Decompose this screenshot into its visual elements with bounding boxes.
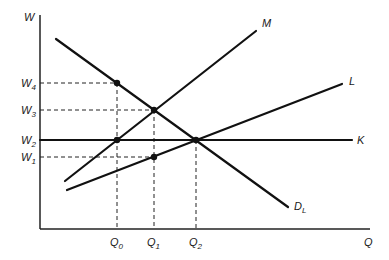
curve-label-l: L <box>349 75 355 87</box>
curve-label-m: M <box>262 17 272 29</box>
point-q0-w4 <box>114 80 120 86</box>
curve-label-k: K <box>357 134 365 146</box>
curve-label-d-l: DL <box>294 200 306 215</box>
point-q0-w2 <box>114 137 120 143</box>
axes <box>40 15 370 229</box>
dashed-guide-lines <box>40 83 196 229</box>
y-tick-w1: W1 <box>21 151 36 166</box>
labor-market-diagram: MLKDLWQW4W3W2W1Q0Q1Q2 <box>0 0 389 260</box>
y-tick-w4: W4 <box>21 77 36 92</box>
point-q1-w3 <box>151 107 157 113</box>
curve-l <box>67 84 342 190</box>
y-tick-w2: W2 <box>21 134 36 149</box>
y-tick-w3: W3 <box>21 104 36 119</box>
x-tick-q0: Q0 <box>110 236 124 251</box>
curves <box>40 31 352 207</box>
point-q1-w1 <box>151 154 157 160</box>
y-axis-label: W <box>24 11 36 23</box>
point-q2-w2 <box>193 137 199 143</box>
x-tick-q1: Q1 <box>147 236 160 251</box>
x-axis-label: Q <box>364 236 373 248</box>
labels: MLKDLWQW4W3W2W1Q0Q1Q2 <box>21 11 373 251</box>
curve-m <box>65 31 256 181</box>
x-tick-q2: Q2 <box>189 236 203 251</box>
intersection-points <box>114 80 199 160</box>
